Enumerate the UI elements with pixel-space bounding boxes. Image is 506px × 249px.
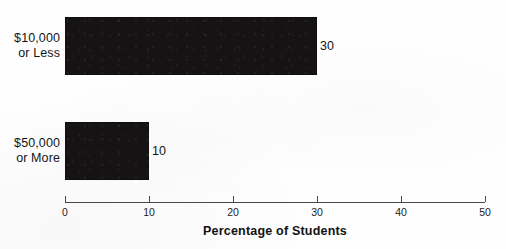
- x-tick-1: [149, 196, 150, 202]
- x-tick-label-2: 20: [213, 206, 253, 218]
- x-tick-label-5: 50: [465, 206, 505, 218]
- x-tick-0: [65, 196, 66, 202]
- x-axis-line: [65, 202, 485, 203]
- x-tick-2: [233, 196, 234, 202]
- x-axis-title: Percentage of Students: [0, 224, 506, 238]
- x-tick-label-4: 40: [381, 206, 421, 218]
- x-tick-label-1: 10: [129, 206, 169, 218]
- x-tick-label-3: 30: [297, 206, 337, 218]
- x-tick-5: [485, 196, 486, 202]
- x-tick-4: [401, 196, 402, 202]
- x-tick-3: [317, 196, 318, 202]
- bar-chart: $10,000 or Less $50,000 or More 30 10 0 …: [0, 0, 506, 249]
- category-label-0: $10,000 or Less: [0, 31, 60, 61]
- category-label-1: $50,000 or More: [0, 136, 60, 166]
- bar-value-1: 10: [152, 144, 166, 158]
- bar-0: [65, 17, 317, 75]
- bar-1: [65, 122, 149, 180]
- bar-value-0: 30: [320, 39, 334, 53]
- x-tick-label-0: 0: [45, 206, 85, 218]
- plot-area: $10,000 or Less $50,000 or More 30 10 0 …: [0, 0, 506, 249]
